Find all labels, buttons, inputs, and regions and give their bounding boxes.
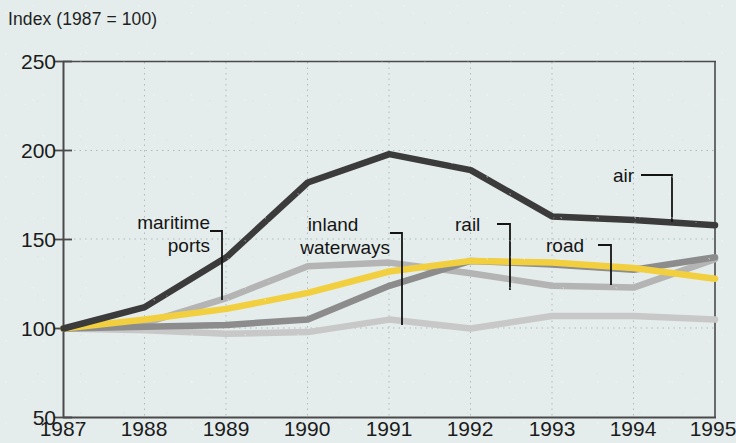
x-tick-1992: 1992 <box>447 417 494 441</box>
y-axis-labels: 250 200 150 100 50 <box>0 0 56 443</box>
annotation-inland-waterways: inland waterways <box>276 213 390 259</box>
x-tick-1994: 1994 <box>610 417 657 441</box>
annotation-maritime-ports-line2: ports <box>110 234 210 257</box>
annotation-maritime-ports-line1: maritime <box>137 212 210 233</box>
y-tick-250: 250 <box>0 50 56 74</box>
annotation-air: air <box>613 165 634 186</box>
x-tick-1990: 1990 <box>284 417 331 441</box>
x-tick-1987: 1987 <box>40 417 87 441</box>
leader-air <box>641 175 672 222</box>
x-tick-1993: 1993 <box>529 417 576 441</box>
y-tick-200: 200 <box>0 139 56 163</box>
annotation-rail: rail <box>455 214 480 235</box>
x-tick-1988: 1988 <box>121 417 168 441</box>
annotation-maritime-ports: maritime ports <box>110 211 210 257</box>
annotation-inland-waterways-line2: waterways <box>276 236 390 259</box>
annotation-road: road <box>546 235 584 256</box>
leader-inland-waterways <box>390 233 402 325</box>
annotation-inland-waterways-line1: inland <box>276 213 390 236</box>
x-tick-1991: 1991 <box>366 417 413 441</box>
x-tick-1989: 1989 <box>203 417 250 441</box>
y-tick-150: 150 <box>0 228 56 252</box>
x-tick-1995: 1995 <box>690 417 736 441</box>
y-tick-100: 100 <box>0 317 56 341</box>
